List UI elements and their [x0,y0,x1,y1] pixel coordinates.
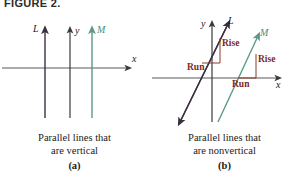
line-label-l-a: L [32,23,39,34]
panel-a-caption-line-1: Parallel lines that [0,132,149,145]
panel-a-letter: (a) [0,160,149,171]
line-label-l-b: L [227,15,234,26]
panel-b-letter: (b) [150,160,299,171]
figure-container: FIGURE 2. x L y [0,0,299,190]
rise-label-m: Rise [258,54,275,64]
y-axis-label-a: y [74,25,80,36]
panel-b-caption-line-1: Parallel lines that [150,132,299,145]
x-axis-label-b: x [275,79,281,90]
figure-label: FIGURE 2. [4,0,61,9]
panel-b: x y L Rise Run M Rise Run Parallel lines… [150,10,299,190]
panel-a: x L y M Parallel lines that are vertical… [0,10,149,190]
panel-b-caption-line-2: are nonvertical [150,145,299,158]
rise-label-l: Rise [222,38,239,48]
line-label-m-a: M [96,24,106,35]
x-axis-label-a: x [131,53,137,64]
panel-a-diagram: x L y M [0,10,149,128]
line-label-m-b: M [259,27,269,38]
y-axis-label-b: y [200,18,206,29]
line-l-b-lower [180,24,228,122]
run-label-l: Run [187,62,205,72]
panel-b-caption: Parallel lines that are nonvertical [150,132,299,157]
run-label-m: Run [232,79,250,89]
panel-a-caption: Parallel lines that are vertical [0,132,149,157]
panel-b-diagram: x y L Rise Run M Rise Run [150,10,299,128]
panel-a-caption-line-2: are vertical [0,145,149,158]
